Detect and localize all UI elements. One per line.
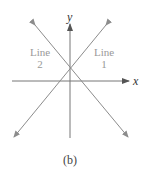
line-1-label-number: 1 bbox=[101, 58, 107, 70]
line-2-label-word: Line bbox=[30, 46, 50, 58]
y-axis-label: y bbox=[66, 10, 73, 24]
line-2-label-number: 2 bbox=[37, 58, 43, 70]
figure-caption: (b) bbox=[63, 153, 77, 167]
x-axis-label: x bbox=[132, 74, 139, 88]
coordinate-diagram: y x Line 2 Line 1 (b) bbox=[0, 0, 146, 176]
line-1-label-word: Line bbox=[94, 46, 114, 58]
